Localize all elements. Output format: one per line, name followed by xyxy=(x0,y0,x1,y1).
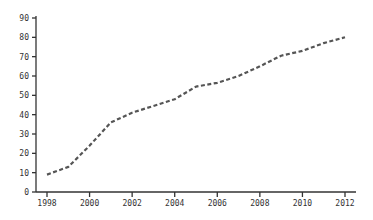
x-tick-label: 2000 xyxy=(80,199,99,208)
x-tick-label: 2004 xyxy=(165,199,184,208)
x-tick-label: 2008 xyxy=(250,199,269,208)
y-tick-label: 90 xyxy=(19,14,29,23)
x-tick-label: 2012 xyxy=(335,199,354,208)
x-tick-label: 1998 xyxy=(37,199,56,208)
y-tick-label: 70 xyxy=(19,53,29,62)
x-tick-label: 2006 xyxy=(208,199,227,208)
y-tick-label: 20 xyxy=(19,149,29,158)
series-line xyxy=(47,37,345,174)
y-tick-label: 60 xyxy=(19,72,29,81)
data-series xyxy=(47,37,345,174)
y-tick-label: 0 xyxy=(24,188,29,197)
x-tick-label: 2002 xyxy=(123,199,142,208)
axes xyxy=(36,16,356,192)
y-tick-label: 50 xyxy=(19,91,29,100)
y-tick-label: 80 xyxy=(19,33,29,42)
y-tick-label: 40 xyxy=(19,111,29,120)
x-axis-ticks: 19982000200220042006200820102012 xyxy=(37,192,354,208)
x-tick-label: 2010 xyxy=(293,199,312,208)
y-tick-label: 10 xyxy=(19,169,29,178)
y-tick-label: 30 xyxy=(19,130,29,139)
y-axis-ticks: 0102030405060708090 xyxy=(19,14,36,197)
line-chart: 0102030405060708090 19982000200220042006… xyxy=(0,0,373,220)
